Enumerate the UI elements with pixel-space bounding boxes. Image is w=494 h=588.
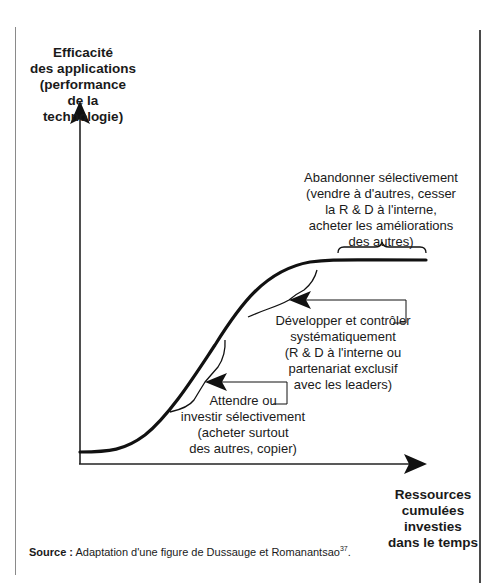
x-axis-label: Ressources cumulées investies dans le te…: [383, 487, 483, 551]
x-axis: [79, 454, 427, 474]
source-caption: Source : Adaptation d'une figure de Duss…: [29, 546, 351, 558]
annotation-develop: Développer et contrôler systématiquement…: [268, 313, 418, 393]
source-suffix: .: [348, 546, 351, 558]
source-footnote: 37: [340, 545, 348, 552]
y-axis-label: Efficacité des applications (performance…: [28, 45, 138, 125]
source-prefix: Source :: [29, 546, 73, 558]
annotation-abandon: Abandonner sélectivement (vendre à d'aut…: [296, 170, 466, 250]
y-axis: [70, 101, 90, 464]
annotation-wait: Attendre ou investir sélectivement (ache…: [178, 393, 308, 457]
source-text: Adaptation d'une figure de Dussauge et R…: [73, 546, 340, 558]
